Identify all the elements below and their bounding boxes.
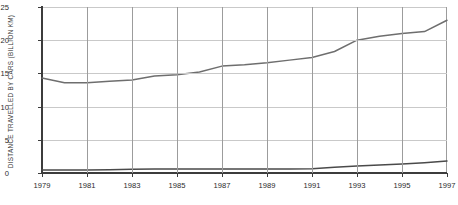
x-tick-label: 1979 xyxy=(34,181,51,190)
gridline-horizontal xyxy=(42,73,447,74)
y-tick-mark xyxy=(38,107,43,108)
x-tick-label: 1981 xyxy=(79,181,96,190)
plot-area xyxy=(42,7,447,173)
gridline-horizontal xyxy=(42,140,447,141)
x-tick-mark xyxy=(87,173,88,177)
chart-root: DISTANCE TRAVELLED BY CARS (BILLION KM) … xyxy=(0,0,458,205)
y-tick-mark xyxy=(38,140,43,141)
gridline-vertical xyxy=(177,7,178,173)
x-tick-mark xyxy=(42,173,43,177)
x-tick-mark xyxy=(267,173,268,177)
gridline-vertical xyxy=(267,7,268,173)
gridline-vertical xyxy=(87,7,88,173)
x-tick-label: 1993 xyxy=(349,181,366,190)
x-tick-mark xyxy=(132,173,133,177)
y-tick-label: 25 xyxy=(0,3,9,12)
y-tick-mark xyxy=(38,73,43,74)
x-tick-mark xyxy=(447,173,448,177)
gridline-vertical xyxy=(357,7,358,173)
x-tick-mark xyxy=(312,173,313,177)
x-tick-label: 1987 xyxy=(214,181,231,190)
x-tick-label: 1991 xyxy=(304,181,321,190)
x-tick-mark xyxy=(177,173,178,177)
series-lines xyxy=(42,7,447,173)
x-tick-label: 1985 xyxy=(169,181,186,190)
gridline-vertical xyxy=(132,7,133,173)
gridline-vertical xyxy=(312,7,313,173)
series-line xyxy=(42,161,447,170)
y-axis-title: DISTANCE TRAVELLED BY CARS (BILLION KM) xyxy=(7,2,14,182)
gridline-horizontal xyxy=(42,40,447,41)
y-tick-label: 0 xyxy=(0,169,9,178)
x-tick-label: 1997 xyxy=(439,181,456,190)
gridline-vertical xyxy=(222,7,223,173)
x-tick-label: 1995 xyxy=(394,181,411,190)
x-tick-label: 1989 xyxy=(259,181,276,190)
x-tick-mark xyxy=(402,173,403,177)
y-tick-label: 10 xyxy=(0,102,9,111)
x-tick-mark xyxy=(222,173,223,177)
y-tick-label: 15 xyxy=(0,69,9,78)
gridline-vertical xyxy=(402,7,403,173)
x-tick-mark xyxy=(357,173,358,177)
y-tick-mark xyxy=(38,7,43,8)
x-tick-label: 1983 xyxy=(124,181,141,190)
y-tick-label: 5 xyxy=(0,135,9,144)
y-tick-mark xyxy=(38,40,43,41)
y-tick-label: 20 xyxy=(0,36,9,45)
gridline-horizontal xyxy=(42,107,447,108)
